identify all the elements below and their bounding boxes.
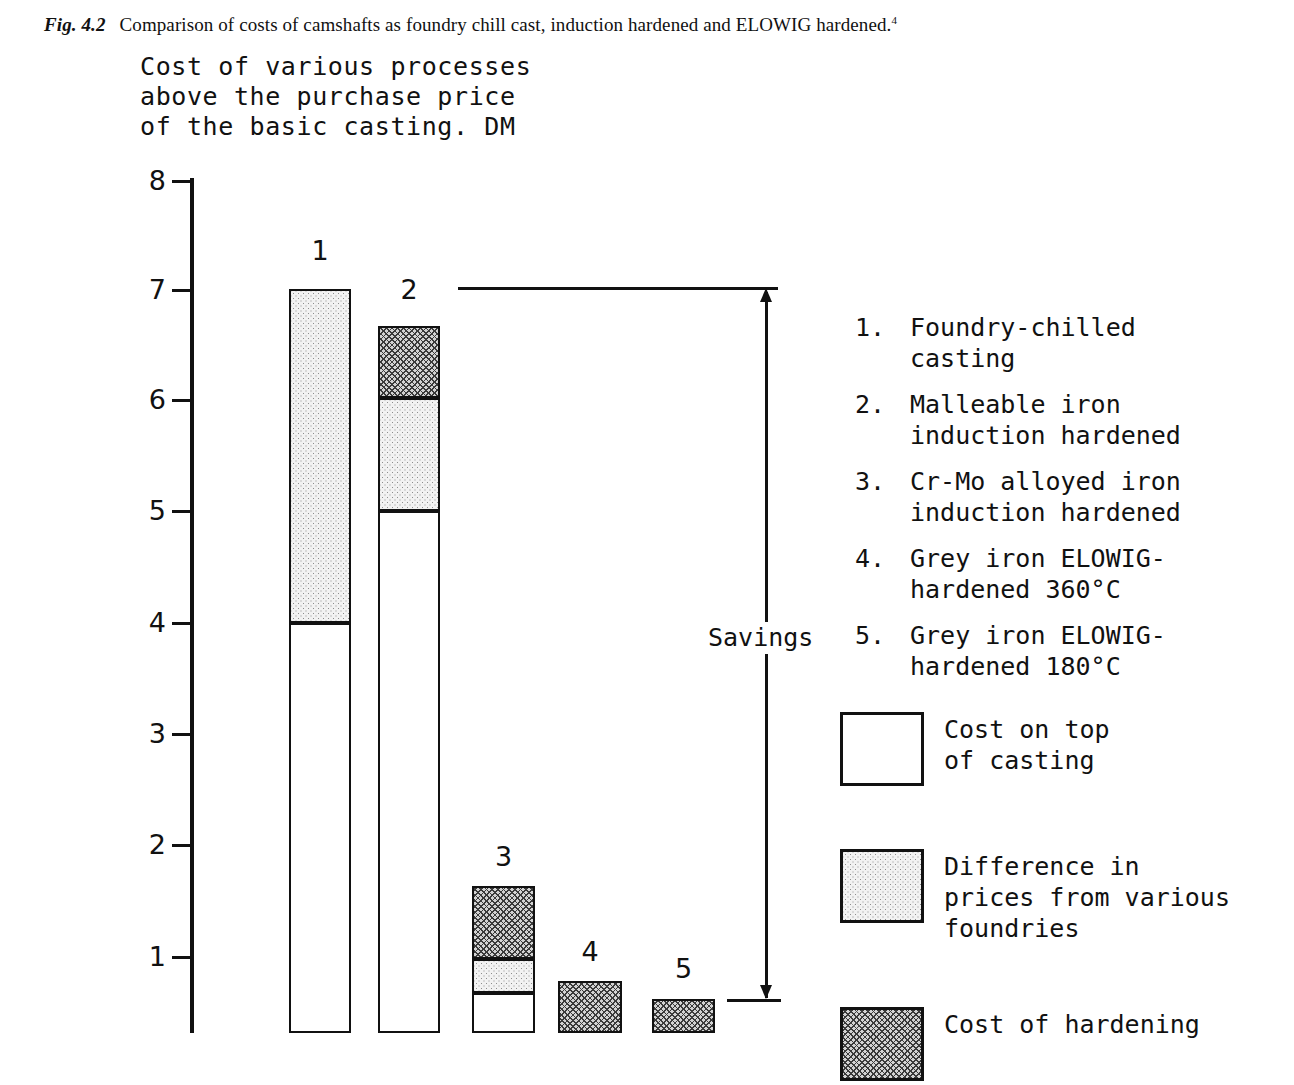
y-tick-label-4: 4: [132, 609, 166, 636]
legend-list-number-2: 2.: [855, 389, 910, 451]
bar-3[interactable]: [472, 886, 535, 1033]
bar-4[interactable]: [558, 981, 622, 1033]
bar-1[interactable]: [289, 289, 351, 1033]
bar-1-segment-cost-on-top-of-casting: [289, 623, 351, 1033]
bar-4-segment-cost-of-hardening: [558, 981, 622, 1033]
legend-list-item-5: 5. Grey iron ELOWIG- hardened 180°C: [855, 620, 1275, 682]
legend-swatch-light-dotted: [840, 849, 924, 923]
legend-list-text-5: Grey iron ELOWIG- hardened 180°C: [910, 620, 1166, 682]
y-tick-7: [172, 289, 194, 292]
legend-swatch-dark-crosshatch: [840, 1007, 924, 1081]
savings-label: Savings: [702, 622, 819, 654]
legend-list-number-4: 4.: [855, 543, 910, 605]
legend-list-item-2: 2. Malleable iron induction hardened: [855, 389, 1275, 451]
bar-5[interactable]: [652, 999, 715, 1033]
y-tick-label-5: 5: [132, 497, 166, 524]
legend-fill-keys: Cost on top of casting Difference in pri…: [840, 712, 1280, 1085]
bar-label-5: 5: [652, 955, 715, 982]
bar-2-segment-cost-of-hardening: [378, 326, 440, 398]
savings-upper-reference-line: [458, 287, 778, 290]
legend-key-cost-of-hardening: Cost of hardening: [840, 1007, 1280, 1081]
legend-key-cost-on-top-of-casting: Cost on top of casting: [840, 712, 1280, 786]
bar-label-1: 1: [289, 237, 351, 264]
legend-list-number-3: 3.: [855, 466, 910, 528]
y-tick-label-7: 7: [132, 276, 166, 303]
bar-3-segment-cost-on-top-of-casting: [472, 993, 535, 1033]
legend-key-text-2: Difference in prices from various foundr…: [944, 849, 1230, 944]
legend-key-difference-in-prices: Difference in prices from various foundr…: [840, 849, 1280, 944]
y-tick-4: [172, 622, 194, 625]
legend-list-number-5: 5.: [855, 620, 910, 682]
y-tick-2: [172, 844, 194, 847]
savings-arrow-stem-upper: [765, 292, 768, 622]
y-tick-5: [172, 510, 194, 513]
savings-arrowhead-up-icon: [760, 288, 772, 302]
y-tick-label-2: 2: [132, 831, 166, 858]
y-tick-1: [172, 956, 194, 959]
legend-key-text-1: Cost on top of casting: [944, 712, 1110, 776]
y-tick-label-8: 8: [132, 167, 166, 194]
y-tick-label-6: 6: [132, 386, 166, 413]
legend-list-text-1: Foundry-chilled casting: [910, 312, 1136, 374]
y-tick-label-1: 1: [132, 943, 166, 970]
y-tick-6: [172, 399, 194, 402]
bar-2-segment-difference-in-prices: [378, 398, 440, 511]
y-axis-line: [190, 178, 194, 1033]
legend-list-item-4: 4. Grey iron ELOWIG- hardened 360°C: [855, 543, 1275, 605]
bar-3-segment-cost-of-hardening: [472, 886, 535, 959]
bar-label-3: 3: [472, 843, 535, 870]
y-tick-3: [172, 733, 194, 736]
bar-label-4: 4: [558, 938, 622, 965]
legend-key-text-3: Cost of hardening: [944, 1007, 1200, 1040]
legend-list-number-1: 1.: [855, 312, 910, 374]
legend-process-list: 1. Foundry-chilled casting 2. Malleable …: [855, 312, 1275, 697]
bar-2[interactable]: [378, 326, 440, 1033]
legend-list-item-3: 3. Cr-Mo alloyed iron induction hardened: [855, 466, 1275, 528]
bar-3-segment-difference-in-prices: [472, 959, 535, 993]
legend-list-text-2: Malleable iron induction hardened: [910, 389, 1181, 451]
legend-swatch-white: [840, 712, 924, 786]
legend-list-item-1: 1. Foundry-chilled casting: [855, 312, 1275, 374]
legend-list-text-3: Cr-Mo alloyed iron induction hardened: [910, 466, 1181, 528]
bar-label-2: 2: [378, 276, 440, 303]
savings-lower-reference-line: [727, 999, 781, 1002]
bar-5-segment-cost-of-hardening: [652, 999, 715, 1033]
savings-arrowhead-down-icon: [760, 985, 772, 999]
bar-2-segment-cost-on-top-of-casting: [378, 511, 440, 1033]
y-tick-8: [172, 180, 194, 183]
legend-list-text-4: Grey iron ELOWIG- hardened 360°C: [910, 543, 1166, 605]
savings-arrow-stem-lower: [765, 652, 768, 998]
y-tick-label-3: 3: [132, 720, 166, 747]
bar-1-segment-difference-in-prices: [289, 289, 351, 623]
